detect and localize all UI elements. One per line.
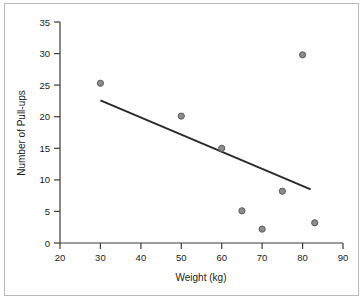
data-point: [312, 220, 318, 226]
y-axis-title: Number of Pull-ups: [16, 90, 27, 176]
data-point: [178, 113, 184, 119]
y-tick-label-15: 15: [39, 143, 50, 154]
x-tick-label-40: 40: [136, 252, 147, 263]
scatter-plot: 35 30 25 20 15 10 5 0 Number of Pull-ups…: [0, 0, 364, 303]
x-tick-label-90: 90: [338, 252, 349, 263]
x-tick-label-70: 70: [257, 252, 268, 263]
x-tick-label-80: 80: [297, 252, 308, 263]
x-tick-label-60: 60: [216, 252, 227, 263]
y-axis: 35 30 25 20 15 10 5 0 Number of Pull-ups: [16, 17, 60, 249]
x-axis-title: Weight (kg): [176, 272, 227, 283]
x-tick-label-20: 20: [55, 252, 66, 263]
data-point: [299, 52, 305, 58]
x-axis: 20 30 40 50 60 70 80 90 Weight (kg): [55, 243, 349, 283]
y-tick-label-35: 35: [39, 17, 50, 28]
data-point: [239, 208, 245, 214]
y-tick-label-5: 5: [45, 206, 50, 217]
data-point: [219, 145, 225, 151]
y-tick-label-30: 30: [39, 48, 50, 59]
data-points: [97, 52, 317, 232]
data-point: [279, 188, 285, 194]
chart-figure: 35 30 25 20 15 10 5 0 Number of Pull-ups…: [0, 0, 364, 303]
y-tick-label-25: 25: [39, 80, 50, 91]
x-tick-label-50: 50: [176, 252, 187, 263]
y-tick-label-20: 20: [39, 111, 50, 122]
x-tick-label-30: 30: [95, 252, 106, 263]
data-point: [259, 226, 265, 232]
y-tick-label-0: 0: [45, 238, 50, 249]
y-tick-label-10: 10: [39, 174, 50, 185]
trend-line: [100, 100, 310, 189]
data-point: [97, 80, 103, 86]
